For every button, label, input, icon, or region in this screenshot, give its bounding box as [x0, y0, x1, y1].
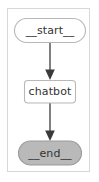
edge-chatbot-to-end[interactable]: [45, 103, 55, 141]
node-start-label: __start__: [25, 24, 75, 37]
graph-canvas: __start__ chatbot __end__: [0, 0, 99, 182]
edge-start-to-chatbot[interactable]: [45, 43, 55, 81]
graph-diagram: __start__ chatbot __end__: [0, 0, 99, 182]
edge-start-to-chatbot-arrowhead: [45, 70, 55, 81]
node-chatbot-label: chatbot: [29, 85, 72, 98]
node-end[interactable]: __end__: [19, 141, 82, 165]
edge-chatbot-to-end-arrowhead: [45, 131, 55, 142]
node-start[interactable]: __start__: [15, 19, 86, 43]
node-chatbot[interactable]: chatbot: [25, 81, 76, 104]
node-end-label: __end__: [27, 147, 72, 160]
